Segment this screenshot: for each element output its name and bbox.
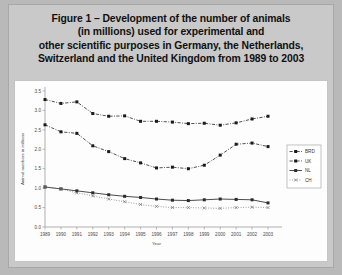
legend-label-brd: BRD xyxy=(305,149,315,154)
legend-label-uk: UK xyxy=(305,159,312,164)
legend-marker-nl xyxy=(294,169,297,172)
x-tick-label: 1995 xyxy=(135,232,146,237)
x-tick-label: 2002 xyxy=(247,232,258,237)
figure-title-line-3: other scientific purposes in Germany, th… xyxy=(15,39,327,52)
x-axis-title: Year xyxy=(152,241,161,246)
y-tick-label: 3.5 xyxy=(35,89,42,94)
y-tick-label: 0.5 xyxy=(35,205,42,210)
x-tick-label: 1990 xyxy=(56,232,67,237)
data-point-nl xyxy=(251,198,254,201)
data-point-brd xyxy=(91,112,94,115)
series-line-uk xyxy=(45,125,268,169)
data-point-nl xyxy=(219,198,222,201)
data-point-uk xyxy=(107,150,110,153)
data-point-uk xyxy=(155,166,158,169)
x-tick-label: 1996 xyxy=(151,232,162,237)
figure-title: Figure 1 – Development of the number of … xyxy=(9,5,333,72)
data-point-nl xyxy=(203,198,206,201)
data-point-brd xyxy=(187,122,190,125)
y-tick-label: 3.0 xyxy=(35,108,42,113)
data-point-uk xyxy=(59,130,62,133)
data-point-ch xyxy=(107,198,110,201)
data-point-brd xyxy=(203,122,206,125)
x-tick-label: 1989 xyxy=(40,232,51,237)
data-point-uk xyxy=(44,123,47,126)
x-tick-label: 1993 xyxy=(104,232,115,237)
data-point-nl xyxy=(235,198,238,201)
data-point-uk xyxy=(251,142,254,145)
data-point-brd xyxy=(171,121,174,124)
data-point-nl xyxy=(187,199,190,202)
x-tick-label: 1991 xyxy=(72,232,83,237)
data-point-ch xyxy=(187,206,190,209)
data-point-brd xyxy=(251,117,254,120)
data-point-brd xyxy=(139,120,142,123)
figure-card: Figure 1 – Development of the number of … xyxy=(8,4,334,268)
y-axis-title: Animal numbers in millions xyxy=(20,132,25,185)
legend-marker-brd xyxy=(294,150,297,153)
data-point-nl xyxy=(139,196,142,199)
data-point-brd xyxy=(59,102,62,105)
legend-label-nl: NL xyxy=(305,168,311,173)
data-point-brd xyxy=(107,115,110,118)
y-tick-label: 2.5 xyxy=(35,128,42,133)
figure-title-line-1: Figure 1 – Development of the number of … xyxy=(15,12,327,25)
y-tick-label: 1.0 xyxy=(35,186,42,191)
data-point-uk xyxy=(91,144,94,147)
data-point-nl xyxy=(91,191,94,194)
data-point-uk xyxy=(219,154,222,157)
data-point-uk xyxy=(267,145,270,148)
y-tick-label: 1.5 xyxy=(35,166,42,171)
data-point-uk xyxy=(75,132,78,135)
data-point-nl xyxy=(171,199,174,202)
chart-panel: 0.00.51.01.52.02.53.03.51989199019911992… xyxy=(14,80,328,262)
data-point-brd xyxy=(235,121,238,124)
x-tick-label: 1994 xyxy=(120,232,131,237)
x-tick-label: 1998 xyxy=(183,232,194,237)
data-point-uk xyxy=(139,161,142,164)
data-point-uk xyxy=(235,143,238,146)
x-tick-label: 1992 xyxy=(88,232,99,237)
data-point-nl xyxy=(267,201,270,204)
x-tick-label: 2000 xyxy=(215,232,226,237)
y-tick-label: 0.0 xyxy=(35,225,42,230)
data-point-nl xyxy=(123,195,126,198)
y-tick-label: 2.0 xyxy=(35,147,42,152)
x-tick-label: 2001 xyxy=(231,232,242,237)
data-point-ch xyxy=(235,206,238,209)
data-point-brd xyxy=(267,115,270,118)
legend-label-ch: CH xyxy=(305,178,312,183)
data-point-brd xyxy=(75,100,78,103)
data-point-nl xyxy=(107,193,110,196)
x-tick-label: 1999 xyxy=(199,232,210,237)
data-point-brd xyxy=(219,124,222,127)
data-point-uk xyxy=(203,164,206,167)
figure-title-line-4: Switzerland and the United Kingdom from … xyxy=(15,52,327,65)
data-point-uk xyxy=(171,166,174,169)
data-point-uk xyxy=(123,157,126,160)
data-point-brd xyxy=(123,114,126,117)
figure-title-line-2: (in millions) used for experimental and xyxy=(15,25,327,38)
data-point-nl xyxy=(155,198,158,201)
x-tick-label: 2003 xyxy=(263,232,274,237)
data-point-ch xyxy=(267,206,270,209)
data-point-uk xyxy=(187,167,190,170)
x-tick-label: 1997 xyxy=(167,232,178,237)
line-chart: 0.00.51.01.52.02.53.03.51989199019911992… xyxy=(15,81,327,261)
data-point-ch xyxy=(155,205,158,208)
data-point-brd xyxy=(44,98,47,101)
data-point-brd xyxy=(155,120,158,123)
legend-marker-uk xyxy=(294,160,297,163)
